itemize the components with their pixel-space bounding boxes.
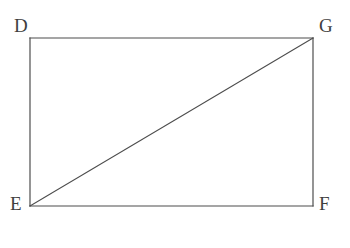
vertex-label-F: F — [319, 194, 330, 213]
vertex-label-G: G — [319, 16, 333, 35]
diagonal-EG — [30, 38, 313, 206]
figure-svg — [0, 0, 350, 248]
geometry-figure: D G E F — [0, 0, 350, 248]
vertex-label-E: E — [10, 194, 22, 213]
vertex-label-D: D — [14, 16, 28, 35]
